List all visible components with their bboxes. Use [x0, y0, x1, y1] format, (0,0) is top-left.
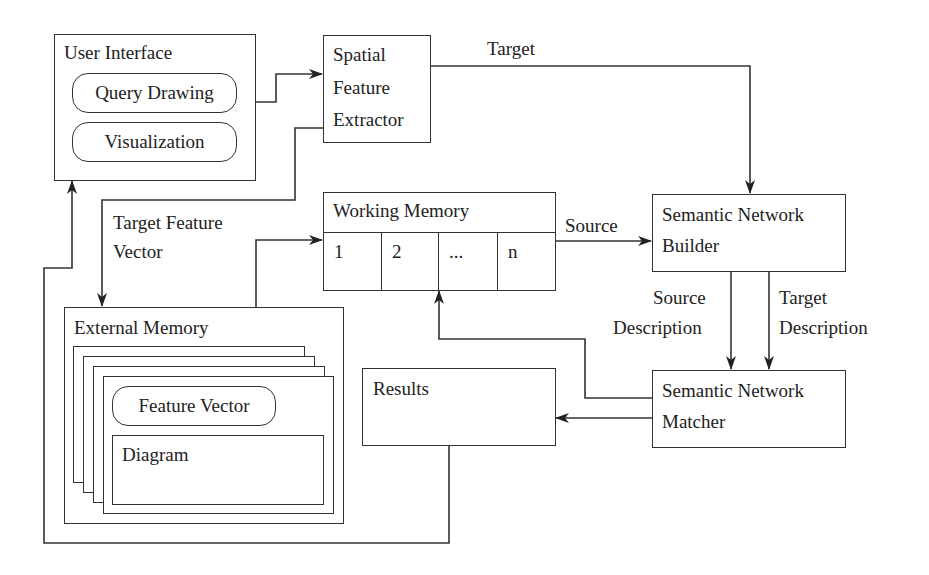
matcher-line1: Semantic Network — [662, 377, 804, 405]
extractor-line2: Feature — [333, 74, 390, 102]
extractor-line1: Spatial — [333, 41, 386, 69]
semantic-network-matcher-box: Semantic Network Matcher — [652, 370, 846, 448]
results-title: Results — [373, 375, 429, 403]
label-source-description-1: Source — [653, 284, 706, 312]
spatial-feature-extractor-box: Spatial Feature Extractor — [323, 35, 431, 143]
label-target-feature-2: Vector — [113, 238, 163, 266]
diagram-box: Diagram — [112, 435, 324, 505]
feature-vector-pill: Feature Vector — [112, 386, 276, 426]
label-target: Target — [487, 35, 535, 63]
matcher-line2: Matcher — [662, 408, 725, 436]
extractor-line3: Extractor — [333, 106, 404, 134]
working-memory-cell: n — [497, 233, 555, 290]
label-source-description-2: Description — [613, 314, 702, 342]
visualization-pill: Visualization — [72, 122, 237, 162]
arrow-ui-to-extractor — [256, 74, 322, 102]
arrow-target — [430, 66, 750, 193]
working-memory-box: Working Memory 1 2 ... n — [323, 192, 556, 291]
working-memory-cell: 2 — [381, 233, 439, 290]
label-target-feature-1: Target Feature — [113, 209, 223, 237]
label-target-description-1: Target — [779, 284, 827, 312]
builder-line1: Semantic Network — [662, 201, 804, 229]
working-memory-cells: 1 2 ... n — [324, 232, 555, 290]
semantic-network-builder-box: Semantic Network Builder — [652, 194, 846, 272]
builder-line2: Builder — [662, 232, 719, 260]
external-memory-title: External Memory — [74, 314, 209, 342]
arrow-external-to-working — [256, 240, 322, 307]
results-box: Results — [362, 368, 556, 446]
working-memory-title: Working Memory — [333, 197, 469, 225]
working-memory-cell: ... — [438, 233, 497, 290]
label-source: Source — [565, 212, 618, 240]
user-interface-title: User Interface — [64, 39, 172, 67]
label-target-description-2: Description — [779, 314, 868, 342]
query-drawing-pill: Query Drawing — [72, 73, 237, 113]
working-memory-cell: 1 — [324, 233, 382, 290]
diagram-title: Diagram — [122, 441, 188, 469]
